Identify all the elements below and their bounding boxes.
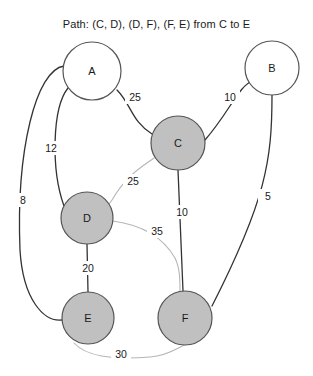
node-a[interactable]: A [63,42,121,100]
graph-diagram: Path: (C, D), (D, F), (F, E) from C to E… [0,0,313,376]
edge-weight-d-f: 35 [151,225,163,237]
node-d[interactable]: D [61,192,113,244]
edge-weight-a-c: 25 [129,91,141,103]
node-label-b: B [268,62,275,74]
edge-b-c [205,80,254,140]
edge-weight-e-f: 30 [115,348,127,360]
node-label-e: E [84,312,91,324]
edge-weight-c-d: 25 [127,175,139,187]
node-c[interactable]: C [151,116,205,170]
node-label-f: F [182,312,189,324]
edge-d-f [113,221,180,291]
node-label-c: C [174,137,182,149]
node-label-d: D [83,212,91,224]
edge-weight-b-c: 10 [224,91,236,103]
edge-weight-a-e: 8 [20,194,26,206]
graph-canvas: 251012852510352030 ABCDEF [0,0,313,376]
edges-layer [19,66,272,358]
node-label-a: A [88,65,96,77]
edge-weight-d-e: 20 [82,262,94,274]
node-e[interactable]: E [62,292,114,344]
edge-weights-layer: 251012852510352030 [13,90,278,361]
edge-weight-a-d: 12 [45,142,57,154]
node-b[interactable]: B [245,41,299,95]
edge-weight-c-f: 10 [176,206,188,218]
edge-weight-b-f: 5 [265,190,271,202]
node-f[interactable]: F [158,291,212,345]
